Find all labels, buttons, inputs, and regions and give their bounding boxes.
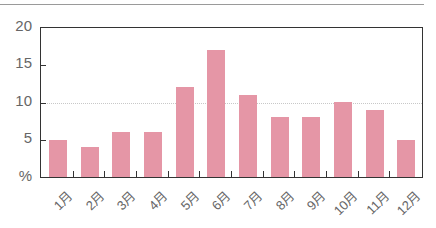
x-tick: [358, 171, 359, 177]
x-tick-label: 1月: [35, 186, 77, 228]
x-tick: [263, 171, 264, 177]
gridline-10: [41, 103, 422, 104]
top-rule: [0, 4, 424, 5]
y-tick-label: 15: [2, 55, 32, 70]
bar-8月: [271, 117, 289, 177]
y-tick-label: 10: [2, 93, 32, 108]
x-tick-label: 2月: [66, 186, 108, 228]
x-tick-label: 4月: [130, 186, 172, 228]
x-tick: [389, 171, 390, 177]
x-tick: [136, 171, 137, 177]
bar-12月: [397, 140, 415, 177]
bar-9月: [302, 117, 320, 177]
bar-10月: [334, 102, 352, 177]
bar-11月: [366, 110, 384, 177]
y-tick-label: 5: [2, 130, 32, 145]
bar-2月: [81, 147, 99, 177]
x-tick: [73, 171, 74, 177]
plot-area: [40, 27, 423, 178]
y-tick: [40, 140, 46, 141]
bar-5月: [176, 87, 194, 177]
x-tick-label: 10月: [320, 186, 362, 228]
y-tick-label: %: [2, 168, 32, 183]
x-tick: [231, 171, 232, 177]
x-tick-label: 11月: [351, 186, 393, 228]
bar-1月: [49, 140, 67, 177]
x-tick-label: 9月: [288, 186, 330, 228]
bar-6月: [207, 50, 225, 177]
bar-4月: [144, 132, 162, 177]
y-tick-label: 20: [2, 18, 32, 33]
x-tick: [326, 171, 327, 177]
x-tick-label: 5月: [161, 186, 203, 228]
x-tick-label: 6月: [193, 186, 235, 228]
x-tick-label: 7月: [225, 186, 267, 228]
bar-3月: [112, 132, 130, 177]
x-tick-label: 8月: [256, 186, 298, 228]
y-tick: [40, 65, 46, 66]
x-tick-label: 3月: [98, 186, 140, 228]
x-tick-label: 12月: [383, 186, 425, 228]
x-tick: [104, 171, 105, 177]
x-tick: [168, 171, 169, 177]
y-tick: [40, 103, 46, 104]
x-tick: [294, 171, 295, 177]
x-tick: [199, 171, 200, 177]
bar-7月: [239, 95, 257, 177]
